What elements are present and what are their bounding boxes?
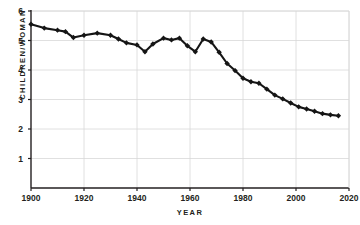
- data-point-marker: [312, 109, 317, 114]
- data-point-marker: [42, 25, 47, 30]
- data-point-marker: [81, 33, 86, 38]
- x-axis-tick-label: 1960: [170, 193, 210, 203]
- data-point-marker: [304, 106, 309, 111]
- chart-plot-area: [0, 0, 360, 225]
- data-point-marker: [169, 37, 174, 42]
- y-axis-tick-label: 5: [5, 36, 23, 46]
- data-point-marker: [320, 111, 325, 116]
- x-axis-tick-label: 1940: [117, 193, 157, 203]
- fertility-rate-line-chart: CHILDREN/WOMAN YEAR 123456 1900192019401…: [0, 0, 360, 225]
- y-axis-tick-label: 1: [5, 154, 23, 164]
- data-point-marker: [328, 112, 333, 117]
- data-point-marker: [28, 22, 33, 27]
- x-axis-title: YEAR: [31, 208, 349, 217]
- x-axis-tick-label: 2000: [276, 193, 316, 203]
- x-axis-tick-label: 1980: [223, 193, 263, 203]
- x-axis-tick-label: 2020: [329, 193, 360, 203]
- y-axis-tick-label: 3: [5, 95, 23, 105]
- x-axis-tick-label: 1920: [64, 193, 104, 203]
- data-point-marker: [336, 113, 341, 118]
- data-point-marker: [95, 30, 100, 35]
- y-axis-tick-label: 2: [5, 124, 23, 134]
- y-axis-tick-label: 6: [5, 6, 23, 16]
- data-point-marker: [55, 27, 60, 32]
- x-axis-tick-label: 1900: [11, 193, 51, 203]
- y-axis-tick-label: 4: [5, 65, 23, 75]
